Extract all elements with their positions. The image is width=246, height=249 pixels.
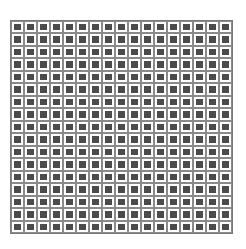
filled-square [157, 174, 164, 180]
grid-cell [206, 21, 219, 33]
filled-square [92, 61, 99, 67]
grid-cell [24, 21, 37, 33]
grid-cell [128, 171, 141, 183]
filled-square [144, 49, 151, 55]
grid-cell [63, 108, 76, 120]
filled-square [40, 61, 47, 67]
filled-square [118, 224, 125, 231]
grid-cell [50, 96, 63, 108]
grid-cell [167, 33, 180, 45]
filled-square [105, 99, 112, 105]
filled-square [14, 61, 21, 67]
grid-cell [167, 133, 180, 145]
filled-square [40, 124, 47, 131]
grid-cell [50, 71, 63, 83]
filled-square [183, 24, 190, 30]
grid-cell [63, 21, 76, 33]
filled-square [14, 86, 21, 92]
grid-cell [89, 71, 102, 83]
filled-square [196, 24, 203, 30]
grid-cell [63, 46, 76, 58]
filled-square [157, 61, 164, 67]
grid-cell [115, 196, 128, 208]
grid-cell [193, 58, 206, 70]
filled-square [209, 49, 216, 55]
filled-square [222, 49, 229, 55]
filled-square [66, 199, 73, 205]
grid-cell [206, 83, 219, 95]
grid-cell [63, 121, 76, 133]
grid-cell [128, 121, 141, 133]
grid-cell [154, 46, 167, 58]
grid-cell [76, 46, 89, 58]
filled-square [157, 49, 164, 55]
grid-cell [193, 196, 206, 208]
grid-cell [102, 96, 115, 108]
grid-cell [24, 146, 37, 158]
filled-square [222, 136, 229, 142]
grid-cell [37, 83, 50, 95]
grid-cell [102, 146, 115, 158]
grid-cell [154, 158, 167, 170]
grid-cell [180, 21, 193, 33]
filled-square [222, 174, 229, 180]
grid-cell [141, 208, 154, 220]
filled-square [222, 211, 229, 217]
filled-square [170, 124, 177, 131]
filled-square [79, 86, 86, 92]
filled-square [209, 111, 216, 117]
grid-cell [219, 96, 232, 108]
grid-cell [89, 46, 102, 58]
filled-square [157, 86, 164, 92]
filled-square [79, 124, 86, 131]
grid-cell [102, 46, 115, 58]
filled-square [196, 86, 203, 92]
grid-cell [180, 58, 193, 70]
grid-cell [76, 21, 89, 33]
filled-square [79, 149, 86, 155]
filled-square [53, 136, 60, 142]
filled-square [170, 24, 177, 30]
filled-square [118, 149, 125, 155]
grid-cell [11, 96, 24, 108]
filled-square [157, 199, 164, 205]
filled-square [196, 99, 203, 105]
filled-square [131, 161, 138, 167]
filled-square [40, 74, 47, 80]
grid-cell [63, 221, 76, 233]
filled-square [14, 49, 21, 55]
grid-cell [206, 33, 219, 45]
filled-square [27, 174, 34, 180]
grid-cell [128, 221, 141, 233]
grid-cell [89, 196, 102, 208]
grid-cell [76, 121, 89, 133]
filled-square [53, 74, 60, 80]
filled-square [66, 149, 73, 155]
filled-square [79, 136, 86, 142]
filled-square [157, 36, 164, 42]
grid-cell [89, 121, 102, 133]
filled-square [27, 24, 34, 30]
grid-cell [76, 33, 89, 45]
grid-cell [37, 208, 50, 220]
filled-square [92, 149, 99, 155]
filled-square [144, 61, 151, 67]
filled-square [209, 99, 216, 105]
grid-cell [89, 183, 102, 195]
filled-square [183, 174, 190, 180]
grid-cell [193, 96, 206, 108]
filled-square [105, 74, 112, 80]
filled-square [27, 49, 34, 55]
grid-cell [193, 221, 206, 233]
filled-square [170, 86, 177, 92]
grid-cell [37, 133, 50, 145]
filled-square [144, 149, 151, 155]
filled-square [27, 86, 34, 92]
grid-cell [180, 83, 193, 95]
filled-square [222, 86, 229, 92]
filled-square [170, 99, 177, 105]
grid-cell [193, 133, 206, 145]
grid-cell [50, 21, 63, 33]
grid-cell [206, 146, 219, 158]
filled-square [144, 99, 151, 105]
